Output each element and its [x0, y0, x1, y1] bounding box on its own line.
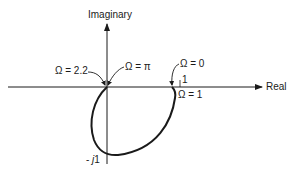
omega-1-label: Ω = 1 — [178, 90, 202, 100]
tick-value: 1 — [94, 154, 100, 165]
omega-2-2-pointer — [88, 72, 105, 85]
omega-pi-pointer — [108, 67, 124, 85]
nyquist-diagram — [0, 0, 293, 177]
omega-0-label: Ω = 0 — [180, 59, 204, 69]
imag-tick-minus-j1-label: - j1 — [86, 155, 100, 165]
omega-0-pointer — [172, 64, 179, 85]
omega-2-2-label: Ω = 2.2 — [55, 66, 88, 76]
nyquist-curve — [92, 87, 176, 155]
omega-pi-label: Ω = π — [125, 62, 151, 72]
imaginary-axis-label: Imaginary — [88, 10, 132, 20]
real-tick-1-label: 1 — [182, 75, 188, 85]
real-axis-label: Real — [266, 82, 287, 92]
